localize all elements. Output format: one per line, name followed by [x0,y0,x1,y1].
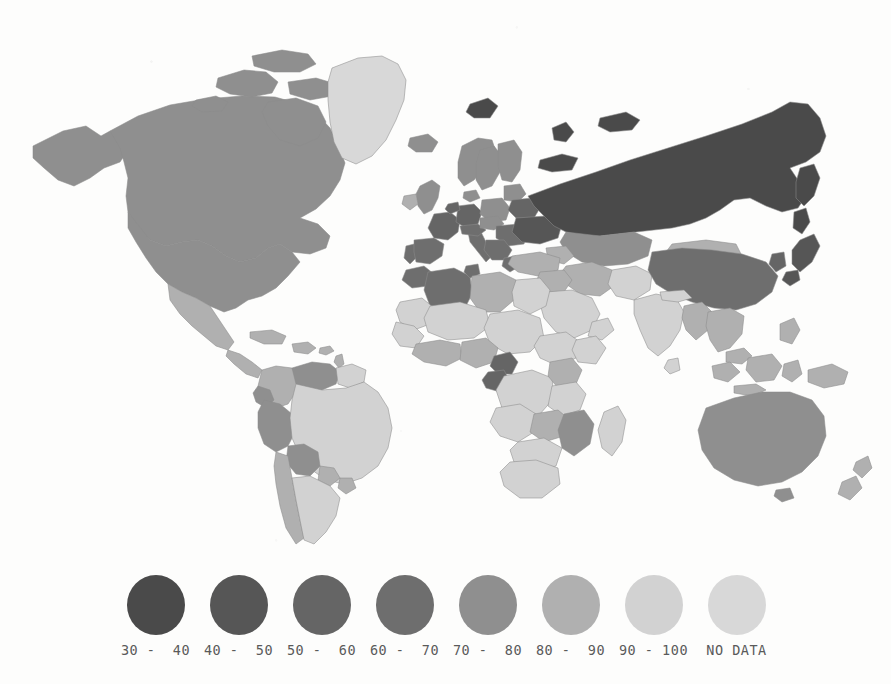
legend-dot-70-80 [459,575,517,635]
legend-item-30-40 [114,575,197,635]
legend-dot-90-100 [625,575,683,635]
legend-dot-no-data [708,575,766,635]
region-sri-lanka [664,358,680,374]
legend-label-row: 30 - 40 40 - 50 50 - 60 60 - 70 70 - 80 … [114,642,778,664]
region-peru [258,400,296,452]
region-kamchatka [796,164,820,206]
region-japan-south [782,270,800,286]
region-hispaniola [292,342,316,354]
region-novaya-zemlya [552,122,574,142]
region-cuba [250,330,286,344]
figure-root: 30 - 40 40 - 50 50 - 60 60 - 70 70 - 80 … [0,0,891,684]
region-madagascar [598,406,626,456]
legend-dot-60-70 [376,575,434,635]
region-mozambique [558,410,594,456]
region-philippines [780,318,800,344]
region-papua-new-guinea [808,364,848,388]
region-kazakhstan [560,232,652,266]
legend: 30 - 40 40 - 50 50 - 60 60 - 70 70 - 80 … [0,562,891,680]
region-ireland [402,194,418,210]
region-lesser-antilles [334,354,344,368]
region-russia-north-1 [538,154,578,172]
region-new-zealand-north [853,456,872,478]
region-united-kingdom [416,180,440,214]
region-denmark [463,190,480,202]
world-map-svg [0,0,891,560]
region-west-africa-coast [412,340,462,366]
region-iceland [408,134,438,152]
legend-item-40-50 [197,575,280,635]
legend-item-70-80 [446,575,529,635]
region-canada-arctic-2 [252,50,316,72]
legend-item-50-60 [280,575,363,635]
region-central-america [226,350,262,378]
legend-swatch-row [114,574,778,636]
legend-dot-80-90 [542,575,600,635]
region-puerto-rico [319,346,334,355]
legend-label-40-50: 40 - 50 [197,642,280,658]
region-south-africa [500,460,560,498]
region-somalia [572,336,606,364]
legend-label-60-70: 60 - 70 [363,642,446,658]
region-greenland [328,56,406,164]
region-sumatra [712,362,740,382]
region-new-zealand-south [838,476,862,500]
legend-dot-40-50 [210,575,268,635]
legend-label-90-100: 90 - 100 [612,642,695,658]
legend-item-no-data [695,575,778,635]
region-russia-arctic-islands [598,112,640,132]
region-japan [792,234,820,272]
legend-label-80-90: 80 - 90 [529,642,612,658]
region-thailand-indochina [706,308,744,352]
legend-label-50-60: 50 - 60 [280,642,363,658]
legend-item-60-70 [363,575,446,635]
region-angola [490,404,536,442]
region-sulawesi [782,360,802,382]
region-borneo [746,354,782,382]
legend-dot-30-40 [127,575,185,635]
region-afghanistan-pakistan [608,266,652,300]
region-tasmania [774,488,794,502]
legend-label-70-80: 70 - 80 [446,642,529,658]
region-finland [498,140,522,182]
world-map [0,0,891,560]
region-australia [698,392,826,486]
region-svalbard [466,98,498,118]
region-libya [470,272,516,312]
region-canada-arctic-1 [216,70,278,97]
legend-item-80-90 [529,575,612,635]
legend-label-no-data: NO DATA [695,642,778,658]
region-spain [414,238,444,264]
legend-label-30-40: 30 - 40 [114,642,197,658]
legend-item-90-100 [612,575,695,635]
region-sakhalin [793,208,810,234]
region-france [428,212,460,240]
region-india [634,294,684,356]
legend-dot-50-60 [293,575,351,635]
